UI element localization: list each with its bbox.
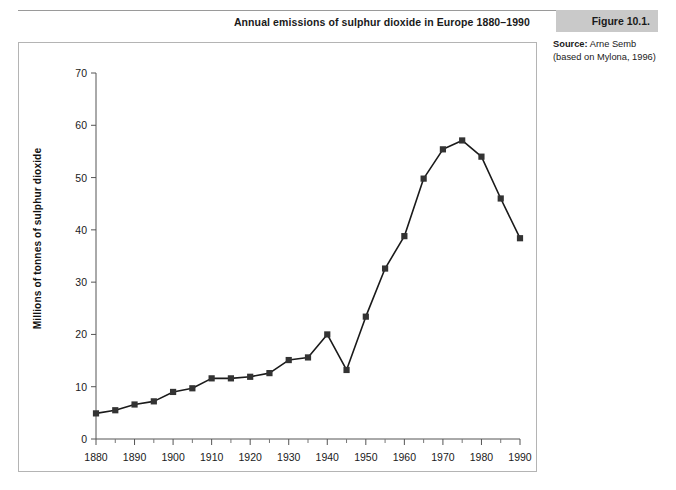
data-point-marker: [266, 370, 272, 376]
y-tick-label: 0: [81, 433, 87, 445]
x-tick-label: 1970: [431, 451, 455, 463]
data-point-marker: [151, 398, 157, 404]
data-point-marker: [382, 265, 388, 271]
data-point-marker: [478, 154, 484, 160]
x-tick-label: 1960: [393, 451, 417, 463]
y-tick-label: 40: [75, 224, 87, 236]
y-tick-label: 70: [75, 67, 87, 79]
data-point-marker: [459, 137, 465, 143]
source-secondary: (based on Mylona, 1996): [553, 52, 656, 62]
data-point-marker: [498, 195, 504, 201]
sulphur-dioxide-line-chart: 0102030405060701880189019001910192019301…: [19, 43, 538, 473]
y-tick-label: 50: [75, 172, 87, 184]
figure-number-badge: Figure 10.1.: [556, 10, 658, 32]
x-tick-label: 1930: [277, 451, 301, 463]
x-tick-label: 1900: [161, 451, 185, 463]
data-point-marker: [305, 354, 311, 360]
data-point-marker: [170, 389, 176, 395]
x-tick-label: 1910: [200, 451, 224, 463]
x-tick-label: 1880: [84, 451, 108, 463]
y-tick-label: 10: [75, 381, 87, 393]
figure-frame: Millions of tonnes of sulphur dioxide 01…: [18, 42, 537, 472]
x-tick-label: 1980: [470, 451, 494, 463]
data-point-marker: [324, 331, 330, 337]
x-tick-label: 1950: [354, 451, 378, 463]
source-label: Source:: [553, 39, 588, 49]
data-point-marker: [401, 233, 407, 239]
y-tick-label: 60: [75, 119, 87, 131]
data-point-marker: [112, 407, 118, 413]
data-point-marker: [228, 375, 234, 381]
x-tick-label: 1920: [239, 451, 263, 463]
y-tick-label: 30: [75, 276, 87, 288]
x-tick-label: 1990: [508, 451, 532, 463]
source-note: Source: Arne Semb (based on Mylona, 1996…: [553, 38, 673, 63]
chart-plot-area: Millions of tonnes of sulphur dioxide 01…: [19, 43, 538, 473]
data-point-marker: [131, 401, 137, 407]
data-point-marker: [189, 385, 195, 391]
data-point-marker: [363, 314, 369, 320]
data-point-marker: [286, 357, 292, 363]
data-line: [96, 140, 520, 413]
data-point-marker: [517, 235, 523, 241]
data-point-marker: [209, 375, 215, 381]
data-point-marker: [247, 374, 253, 380]
data-point-marker: [421, 176, 427, 182]
y-tick-label: 20: [75, 328, 87, 340]
y-axis-title: Millions of tonnes of sulphur dioxide: [32, 109, 43, 369]
data-point-marker: [440, 146, 446, 152]
x-tick-label: 1940: [316, 451, 340, 463]
data-point-marker: [343, 367, 349, 373]
x-tick-label: 1890: [123, 451, 147, 463]
source-name: Arne Semb: [588, 39, 637, 49]
data-point-marker: [93, 410, 99, 416]
figure-header: Annual emissions of sulphur dioxide in E…: [18, 10, 658, 32]
figure-caption-title: Annual emissions of sulphur dioxide in E…: [18, 13, 538, 32]
